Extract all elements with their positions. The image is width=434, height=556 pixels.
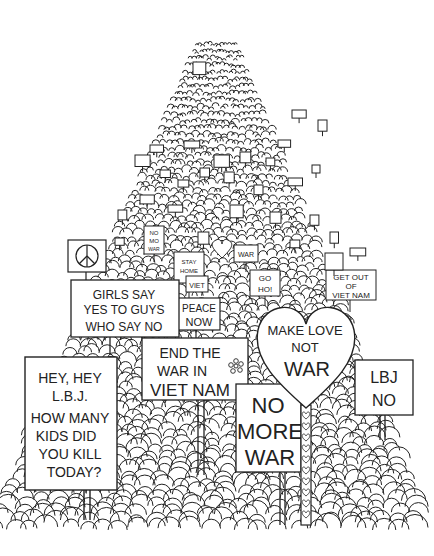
small-sign — [266, 158, 275, 166]
crowd-head — [158, 204, 166, 208]
crowd-head — [248, 83, 254, 86]
crowd-head — [238, 493, 254, 501]
crowd-head — [217, 72, 221, 74]
crowd-head — [245, 130, 253, 134]
crowd-head — [207, 72, 212, 75]
crowd-head — [309, 290, 324, 298]
crowd-head — [99, 345, 115, 353]
crowd-head — [213, 86, 218, 89]
crowd-head — [63, 348, 77, 355]
crowd-head — [237, 230, 246, 234]
sign-line: YOU KILL — [38, 446, 101, 462]
crowd-head — [245, 70, 249, 72]
crowd-head — [280, 295, 296, 303]
crowd-head — [186, 133, 194, 137]
crowd-head — [286, 202, 293, 206]
crowd-head — [238, 235, 247, 239]
crowd-head — [387, 447, 410, 458]
crowd-head — [364, 435, 384, 445]
crowd-head — [251, 148, 259, 152]
crowd-head — [313, 258, 322, 262]
crowd-head — [193, 76, 197, 78]
crowd-head — [142, 181, 150, 185]
crowd-head — [198, 77, 203, 80]
small-sign — [200, 168, 210, 177]
sign-line: KIDS DID — [36, 428, 97, 444]
crowd-head — [205, 213, 217, 219]
small-sign — [198, 232, 209, 244]
crowd-head — [289, 216, 297, 220]
sign-line: WAR IN — [157, 363, 207, 379]
sign-line: GIRLS SAY — [93, 288, 155, 302]
sign-line: HO! — [258, 285, 272, 294]
sign-line: STAY — [182, 259, 197, 265]
small-sign — [318, 120, 327, 131]
sign-line: TODAY? — [47, 464, 102, 480]
crowd-head — [235, 283, 250, 291]
crowd-head — [158, 517, 181, 528]
crowd-head — [206, 99, 211, 101]
crowd-head — [147, 167, 154, 170]
crowd-head — [217, 91, 222, 93]
crowd-head — [125, 339, 138, 345]
crowd-head — [187, 451, 201, 458]
crowd-head — [125, 374, 142, 382]
crowd-head — [235, 114, 240, 116]
crowd-head — [201, 45, 205, 47]
crowd-head — [129, 515, 145, 523]
crowd-head — [207, 262, 221, 269]
crowd-head — [270, 202, 280, 207]
crowd-head — [126, 202, 135, 206]
crowd-head — [192, 107, 198, 110]
crowd-head — [250, 140, 259, 145]
sign-line: NO — [252, 393, 285, 418]
small-sign — [115, 238, 124, 245]
crowd-head — [246, 208, 256, 213]
crowd-head — [171, 188, 178, 191]
crowd-head — [160, 194, 169, 198]
crowd-head — [169, 148, 175, 151]
crowd-head — [202, 141, 208, 144]
crowd-head — [310, 520, 327, 529]
crowd-head — [184, 221, 197, 227]
crowd-head — [196, 100, 201, 102]
small-sign — [292, 110, 306, 118]
crowd-head — [358, 445, 372, 452]
crowd-head — [296, 265, 308, 271]
crowd-head — [314, 483, 334, 493]
crowd-head — [234, 43, 237, 45]
crowd-head — [145, 185, 156, 191]
crowd-head — [254, 98, 261, 101]
crowd-head — [269, 182, 276, 185]
crowd-head — [193, 50, 197, 52]
heart-sign-pole — [301, 405, 311, 525]
crowd-head — [209, 138, 218, 143]
sign-line: WHO SAY NO — [86, 320, 163, 334]
crowd-head — [220, 264, 232, 270]
small-sign — [118, 210, 127, 220]
crowd-head — [285, 196, 293, 200]
crowd-head — [305, 304, 318, 311]
crowd-head — [138, 208, 148, 213]
crowd-head — [171, 112, 178, 116]
crowd-head — [257, 118, 262, 121]
crowd-head — [252, 155, 260, 159]
crowd-head — [126, 250, 135, 254]
crowd-head — [234, 59, 237, 61]
peace-symbol-icon — [76, 245, 98, 267]
crowd-head — [225, 83, 230, 85]
small-sign — [184, 141, 200, 148]
crowd-head — [220, 463, 235, 470]
crowd-head — [291, 234, 302, 240]
crowd-head — [189, 167, 198, 172]
crowd-head — [201, 146, 207, 149]
crowd-head — [197, 507, 221, 519]
crowd-head — [127, 237, 136, 241]
crowd-head — [261, 107, 265, 109]
sign-line: NOW — [186, 316, 214, 328]
crowd-head — [160, 139, 166, 142]
protest-cartoon: STAY HOME VIET NO MO WAR WAR GO HO! — [0, 0, 434, 556]
crowd-head — [321, 436, 339, 445]
crowd-head — [255, 135, 260, 138]
crowd-head — [247, 235, 256, 240]
